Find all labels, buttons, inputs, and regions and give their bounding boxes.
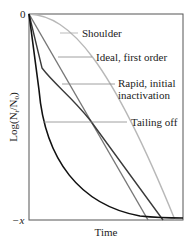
label-ideal: Ideal, first order [96, 51, 167, 63]
label-rapid-2: inactivation [118, 89, 170, 101]
y-tick-zero: 0 [20, 8, 26, 20]
label-rapid-1: Rapid, initial [118, 77, 175, 89]
label-shoulder: Shoulder [82, 27, 122, 39]
x-axis-label: Time [95, 226, 118, 238]
y-tick-min: −x [12, 214, 24, 226]
inactivation-chart: Shoulder Ideal, first order Rapid, initi… [0, 0, 192, 247]
label-tailing: Tailing off [131, 116, 178, 128]
y-axis-label: Log(Nt/N0) [7, 92, 21, 142]
